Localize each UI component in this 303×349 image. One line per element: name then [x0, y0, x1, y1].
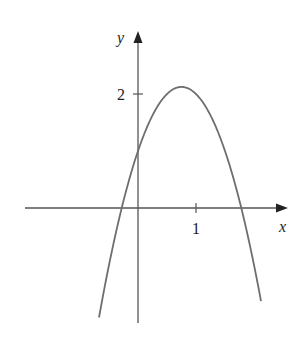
x-axis-arrow-icon: [276, 204, 288, 213]
parabola-graph: y x 1 2: [0, 0, 303, 349]
y-axis-label: y: [115, 29, 125, 47]
x-tick-label-1: 1: [192, 220, 200, 237]
y-tick-label-2: 2: [117, 86, 125, 103]
y-axis-arrow-icon: [134, 31, 143, 43]
x-axis-label: x: [278, 218, 286, 235]
parabola-curve: [99, 87, 261, 318]
